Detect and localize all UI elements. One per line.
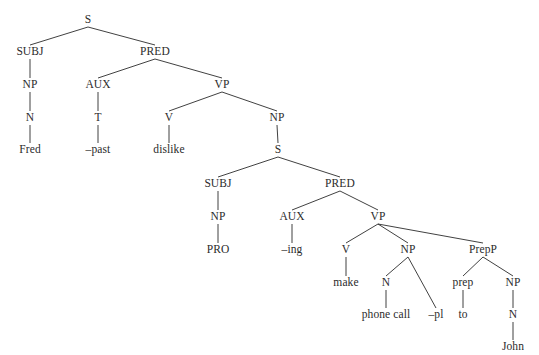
tree-edge-pred-2-to-aux-2	[292, 191, 340, 210]
tree-node-lex-phonecall: phone call	[362, 309, 411, 321]
tree-edge-s-root-to-pred-1	[88, 27, 155, 45]
tree-edge-vp-2-to-prepp-1	[378, 224, 483, 243]
tree-edge-layer	[0, 0, 539, 355]
tree-node-lex-past: –past	[86, 144, 111, 156]
tree-edge-prepp-1-to-prep-1	[463, 257, 483, 276]
tree-node-t-1: T	[94, 112, 101, 124]
tree-node-vp-2: VP	[371, 211, 386, 223]
tree-node-lex-ing: –ing	[282, 244, 303, 256]
tree-node-np-3: NP	[211, 211, 226, 223]
tree-node-v-1: V	[165, 112, 173, 124]
tree-node-prepp-1: PrepP	[469, 244, 497, 256]
tree-node-lex-john: John	[502, 341, 524, 353]
tree-node-n-1: N	[26, 112, 34, 124]
tree-edge-vp-2-to-v-2	[346, 224, 378, 243]
tree-edge-np-4-to-lex-pl	[408, 257, 436, 308]
tree-node-subj-1: SUBJ	[16, 46, 43, 58]
tree-edge-pred-1-to-aux-1	[98, 59, 155, 78]
tree-node-lex-to: to	[458, 309, 467, 321]
tree-node-n-3: N	[509, 309, 517, 321]
tree-node-vp-1: VP	[215, 79, 230, 91]
tree-edge-prepp-1-to-np-5	[483, 257, 513, 276]
tree-node-pred-1: PRED	[140, 46, 170, 58]
tree-edge-s-embedded-to-subj-2	[218, 157, 278, 177]
tree-node-prep-1: prep	[453, 277, 474, 289]
tree-edge-np-4-to-n-2	[386, 257, 408, 276]
tree-node-lex-pro: PRO	[207, 244, 230, 256]
tree-node-np-4: NP	[401, 244, 416, 256]
tree-node-v-2: V	[342, 244, 350, 256]
tree-node-aux-2: AUX	[279, 211, 304, 223]
tree-node-np-2: NP	[270, 112, 285, 124]
tree-node-subj-2: SUBJ	[204, 178, 231, 190]
tree-node-aux-1: AUX	[85, 79, 110, 91]
tree-edge-vp-2-to-np-4	[378, 224, 408, 243]
tree-node-np-5: NP	[506, 277, 521, 289]
tree-node-pred-2: PRED	[325, 178, 355, 190]
tree-node-lex-make: make	[333, 277, 358, 289]
tree-node-s-embedded: S	[275, 144, 282, 156]
tree-edge-vp-1-to-np-2	[222, 92, 277, 111]
tree-edge-pred-1-to-vp-1	[155, 59, 222, 78]
tree-edge-s-embedded-to-pred-2	[278, 157, 340, 177]
syntax-tree-diagram: SSUBJPREDNPAUXVPNTVNPFred–pastdislikeSSU…	[0, 0, 539, 355]
tree-edge-np-2-to-s-embedded	[277, 125, 278, 143]
tree-node-s-root: S	[85, 14, 92, 26]
tree-edge-pred-2-to-vp-2	[340, 191, 378, 210]
tree-edge-s-root-to-subj-1	[30, 27, 88, 45]
tree-node-n-2: N	[382, 277, 390, 289]
tree-node-lex-pl: –pl	[429, 309, 444, 321]
tree-node-np-1: NP	[23, 79, 38, 91]
tree-node-lex-fred: Fred	[19, 144, 40, 156]
tree-edge-vp-1-to-v-1	[169, 92, 222, 111]
tree-node-lex-dislike: dislike	[153, 144, 184, 156]
